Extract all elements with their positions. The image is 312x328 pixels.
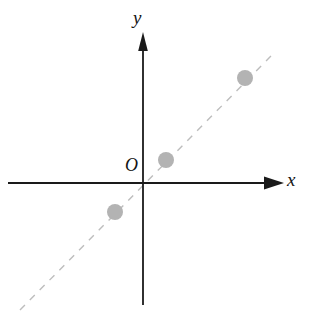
data-point [158,152,174,168]
figure-canvas [0,0,312,328]
trend-line-segment [20,52,275,310]
y-axis-arrowhead [138,32,148,51]
y-axis-label: y [133,8,141,27]
data-point [107,204,123,220]
coordinate-plane-figure: y x O [0,0,312,328]
x-axis-arrowhead [264,177,284,190]
x-axis [8,177,284,190]
y-axis [138,32,148,305]
origin-label: O [125,156,138,174]
data-point-group [107,70,253,220]
dashed-trend-line [20,52,275,310]
x-axis-label: x [287,170,295,189]
data-point [237,70,253,86]
